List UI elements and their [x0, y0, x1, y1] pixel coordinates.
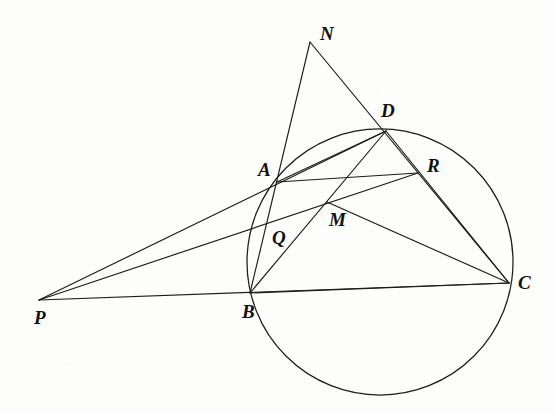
point-label-r: R — [427, 156, 440, 175]
point-label-b: B — [242, 302, 255, 321]
point-label-q: Q — [272, 228, 286, 247]
circumcircle — [247, 129, 513, 395]
point-label-n: N — [320, 24, 334, 43]
point-label-c: C — [518, 273, 531, 292]
point-label-d: D — [381, 101, 395, 120]
point-label-p: P — [34, 308, 46, 327]
geometry-figure: PNABCDMQR — [0, 0, 556, 414]
segment-b-c — [250, 283, 509, 293]
point-label-a: A — [258, 160, 271, 179]
segment-d-c — [386, 131, 509, 283]
segment-b-d — [250, 131, 386, 293]
figure-canvas — [0, 0, 556, 414]
segment-p-r — [39, 173, 418, 300]
point-label-m: M — [329, 210, 346, 229]
segment-m-c — [327, 202, 509, 283]
circle-layer — [247, 129, 513, 395]
